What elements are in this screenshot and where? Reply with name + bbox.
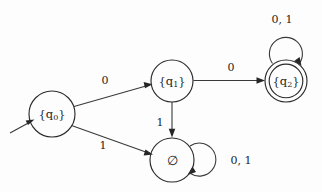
transition-q1-to-q2: 0: [194, 61, 266, 84]
state-node-q2[interactable]: {q2}: [265, 60, 307, 102]
transition-label-q0-empty: 1: [100, 139, 107, 152]
transition-q0-to-q1-line: [74, 85, 150, 107]
transition-q1-to-empty-arrowhead: [169, 129, 176, 138]
state-label-q2: {q2}: [272, 74, 299, 89]
transition-q1-to-q2-arrowhead: [257, 77, 266, 83]
transition-label-q0-q1: 0: [102, 74, 109, 87]
transition-q0-to-q1: 0: [74, 74, 153, 107]
state-node-q0[interactable]: {q0}: [29, 91, 75, 137]
transition-label-q1-empty: 1: [157, 116, 164, 129]
transition-q0-to-empty: 1: [72, 126, 154, 156]
transition-q1-to-empty: 1: [157, 102, 176, 138]
self-loop-q2: 0, 1: [269, 13, 302, 66]
state-node-q1[interactable]: {q1}: [151, 60, 193, 102]
self-loop-label-empty: 0, 1: [231, 154, 252, 167]
state-label-q0: {q0}: [38, 107, 65, 122]
automaton-canvas: 0 1 0 1 0, 1 0, 1: [0, 0, 322, 192]
state-label-q1: {q1}: [158, 74, 185, 89]
state-node-empty-set[interactable]: ∅: [150, 138, 194, 182]
transition-label-q1-q2: 0: [228, 61, 235, 74]
automaton-diagram: 0 1 0 1 0, 1 0, 1: [0, 0, 322, 192]
self-loop-q2-arrowhead: [294, 57, 301, 66]
self-loop-empty: 0, 1: [188, 143, 252, 176]
state-label-empty-set: ∅: [167, 153, 178, 168]
transition-q0-to-empty-line: [72, 126, 151, 154]
self-loop-label-q2: 0, 1: [272, 13, 293, 26]
